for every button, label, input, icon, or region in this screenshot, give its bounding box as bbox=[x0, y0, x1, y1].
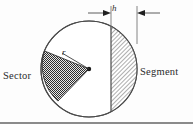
height-label: h bbox=[112, 4, 117, 13]
segment-label: Segment bbox=[140, 67, 179, 78]
sector-label: Sector bbox=[3, 71, 31, 82]
radius-label: r bbox=[62, 48, 66, 57]
bottom-rule bbox=[0, 122, 193, 124]
segment-region bbox=[111, 18, 143, 120]
dimension-h bbox=[88, 10, 160, 16]
figure-container: Sector Segment r h bbox=[0, 0, 193, 130]
circle-sector-segment-diagram bbox=[0, 0, 193, 130]
